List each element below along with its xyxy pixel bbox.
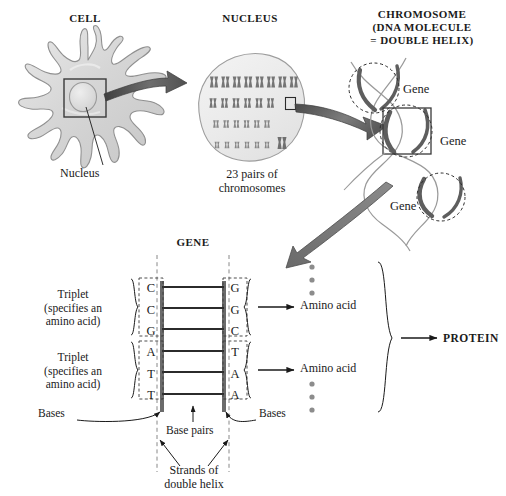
nucleus-title: NUCLEUS: [205, 12, 295, 24]
cell-title: CELL: [45, 12, 125, 24]
gene-label-3: Gene: [390, 199, 416, 213]
gene-label-1: Gene: [403, 82, 429, 96]
bases-label-right: Bases: [259, 407, 286, 420]
cell-nucleus-shape: [70, 83, 97, 112]
protein-label: PROTEIN: [443, 332, 499, 345]
nucleus-illustration: [199, 54, 305, 161]
base-letter-left: G: [144, 324, 158, 338]
strands-label-line1: Strands of: [144, 464, 244, 477]
gene-box-leader: [344, 153, 385, 190]
triplet-label-1-line3: amino acid): [21, 315, 125, 329]
bases-right-arrow: [226, 412, 256, 422]
base-pairs-label: Base pairs: [166, 424, 214, 437]
bases-left-arrow: [77, 412, 160, 422]
gene-label-2: Gene: [440, 134, 466, 148]
amino-acid-label-1: Amino acid: [300, 299, 356, 312]
base-letter-right: G: [228, 303, 242, 317]
graphics-layer: [0, 0, 506, 496]
base-letter-left: C: [144, 281, 158, 295]
base-pair-rungs: [162, 287, 224, 394]
chromosome-title-line1: CHROMOSOME: [346, 8, 498, 20]
gene-arc-2b: [413, 110, 428, 152]
gene-arc-3: [420, 179, 432, 216]
base-letter-left: T: [144, 367, 158, 381]
triplet-label-2-line2: (specifies an: [21, 365, 125, 379]
ellipsis-dots: [309, 264, 314, 412]
base-letter-left: T: [144, 388, 158, 402]
gene-arc-2: [385, 112, 394, 152]
gene-ladder: [77, 255, 437, 472]
triplet-label-2-line1: Triplet: [21, 351, 125, 365]
bases-label-left: Bases: [38, 407, 65, 420]
triplet-label-1-line1: Triplet: [21, 288, 125, 302]
triplet-label-2-line3: amino acid): [21, 378, 125, 392]
diagram-canvas: CELL Nucleus NUCLEUS 23 pairs of chromos…: [0, 0, 506, 496]
strands-label-line2: double helix: [144, 478, 244, 491]
gene-arc-3b: [444, 178, 461, 217]
triplet-label-1: Triplet (specifies an amino acid): [21, 288, 125, 329]
nucleus-caption-line2: chromosomes: [197, 182, 307, 195]
gene-title: GENE: [155, 236, 231, 248]
base-letter-right: T: [228, 345, 242, 359]
brace-right-2: [244, 342, 251, 398]
base-letter-right: G: [228, 281, 242, 295]
base-letter-right: A: [228, 388, 242, 402]
brace-left-2: [131, 342, 138, 398]
base-letter-left: C: [144, 303, 158, 317]
chromosome-title-line3: = DOUBLE HELIX): [346, 34, 498, 46]
brace-right-1: [244, 279, 251, 335]
triplet-label-1-line2: (specifies an: [21, 302, 125, 316]
cell-nucleus-label: Nucleus: [60, 167, 142, 180]
base-letter-left: A: [144, 345, 158, 359]
brace-left-1: [131, 279, 138, 335]
base-letter-right: C: [228, 324, 242, 338]
amino-acid-label-2: Amino acid: [300, 362, 356, 375]
chromosome-title-line2: (DNA MOLECULE: [346, 21, 498, 33]
gene-arc-1b: [381, 66, 398, 109]
base-letter-right: A: [228, 367, 242, 381]
triplet-label-2: Triplet (specifies an amino acid): [21, 351, 125, 392]
cell-illustration: [19, 26, 166, 168]
protein-brace: [378, 262, 392, 412]
nucleus-caption-line1: 23 pairs of: [197, 168, 307, 181]
